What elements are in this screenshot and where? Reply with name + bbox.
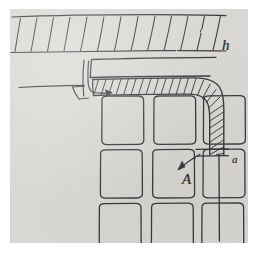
hook-bracket-bottom xyxy=(79,98,89,99)
paper-sheet: h a A xyxy=(10,9,248,243)
top-band-upper-edge xyxy=(12,15,226,17)
top-band-hatching xyxy=(15,16,221,52)
hatched-top-band xyxy=(11,15,226,53)
cell-r3c2 xyxy=(151,203,193,243)
cell-r3c3 xyxy=(202,203,244,243)
cell-r2c1 xyxy=(100,150,142,199)
wall-left-cap xyxy=(93,80,94,96)
dim-a-lower-line xyxy=(197,156,229,157)
label-a: a xyxy=(232,154,238,165)
callout-arrow-A xyxy=(178,154,200,170)
sketch-image-root: h a A xyxy=(0,0,257,261)
hook-bracket-left xyxy=(73,87,80,99)
hand-drawn-sketch xyxy=(10,9,248,243)
blank-flange-bar xyxy=(90,57,216,77)
dim-a-upper-line xyxy=(196,149,229,150)
flange-left-edge xyxy=(90,60,91,78)
label-h: h xyxy=(222,38,230,53)
cell-r1c1 xyxy=(102,96,144,145)
callout-A-arrowhead xyxy=(178,161,185,169)
top-band-lower-edge xyxy=(11,51,226,53)
flange-top-edge xyxy=(92,57,216,59)
cell-r3c1 xyxy=(99,203,141,243)
wall-inner-profile xyxy=(94,94,210,155)
cell-r1c2 xyxy=(154,96,196,145)
hook-outer-edge xyxy=(83,60,84,96)
label-A: A xyxy=(182,172,191,187)
hook-inner-edge xyxy=(88,61,89,81)
